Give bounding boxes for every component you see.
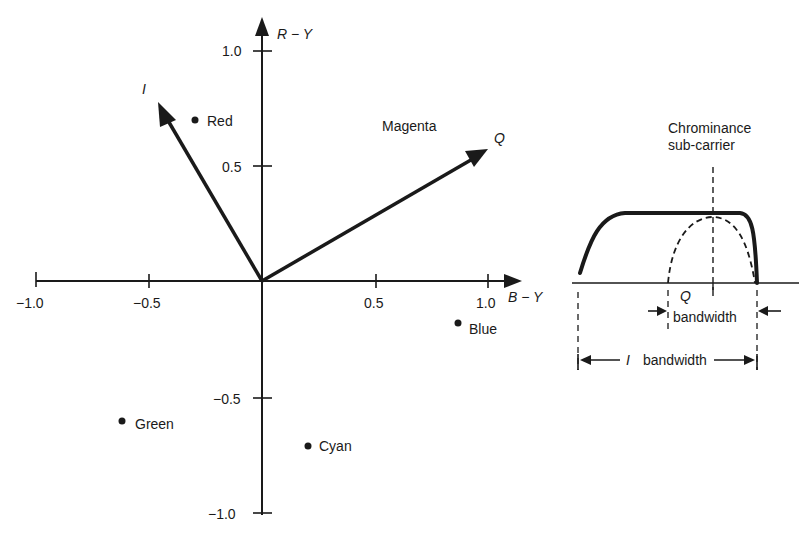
- green-label: Green: [135, 416, 174, 432]
- green-point: [119, 418, 126, 425]
- y-axis-arrow-icon: [255, 17, 269, 36]
- red-point: [192, 117, 199, 124]
- i-vector-label: I: [142, 81, 146, 97]
- magenta-label: Magenta: [382, 118, 437, 134]
- y-tick-label: −1.0: [208, 506, 236, 522]
- q-bandwidth-label: bandwidth: [673, 309, 737, 325]
- cyan-point: [305, 443, 312, 450]
- blue-point: [455, 320, 462, 327]
- cyan-label: Cyan: [319, 438, 352, 454]
- carrier-label-line2: sub-carrier: [668, 137, 735, 153]
- i-vector: [163, 112, 262, 281]
- i-vector-arrow-icon: [158, 102, 176, 127]
- vector-chart: −1.0 −0.5 0.5 1.0 1.0 0.5 −0.5 −1.0 R − …: [16, 17, 544, 522]
- y-axis-label: R − Y: [277, 26, 314, 42]
- q-vector-arrow-icon: [465, 149, 488, 167]
- blue-label: Blue: [469, 321, 497, 337]
- y-tick-label: 1.0: [222, 43, 242, 59]
- x-axis-label: B − Y: [508, 289, 544, 305]
- i-bandwidth-label: bandwidth: [643, 352, 707, 368]
- bandwidth-diagram: Chrominance sub-carrier Q bandwidth: [572, 120, 799, 370]
- q-band-label: Q: [680, 288, 691, 304]
- x-axis-arrow-icon: [504, 274, 522, 288]
- q-response-curve: [668, 217, 755, 283]
- q-vector-label: Q: [494, 130, 505, 146]
- i-band-label: I: [626, 352, 630, 368]
- iq-diagram: −1.0 −0.5 0.5 1.0 1.0 0.5 −0.5 −1.0 R − …: [0, 0, 804, 540]
- q-vector: [262, 157, 476, 281]
- carrier-label-line1: Chrominance: [668, 120, 751, 136]
- red-label: Red: [207, 113, 233, 129]
- x-tick-label: 0.5: [364, 295, 384, 311]
- x-tick-label: −1.0: [16, 295, 44, 311]
- y-tick-label: −0.5: [213, 391, 241, 407]
- x-tick-label: −0.5: [133, 295, 161, 311]
- y-tick-label: 0.5: [222, 159, 242, 175]
- x-tick-label: 1.0: [476, 295, 496, 311]
